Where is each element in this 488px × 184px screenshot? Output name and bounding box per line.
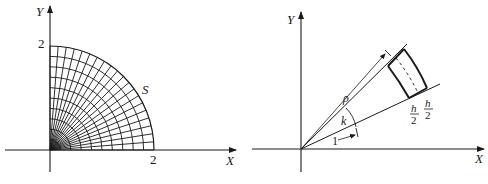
region-label-s: S bbox=[142, 82, 149, 97]
unit-label: 1 bbox=[332, 134, 338, 148]
sector-outer-arc bbox=[404, 49, 427, 88]
half-h-denominator-1: 2 bbox=[411, 114, 417, 126]
right-figure bbox=[252, 12, 484, 172]
left-figure: Y X 2 2 S bbox=[5, 4, 236, 172]
left-y-tick-2: 2 bbox=[38, 36, 45, 51]
sector-upper-edge bbox=[388, 49, 404, 66]
polar-grid bbox=[50, 46, 154, 150]
left-x-tick-2: 2 bbox=[150, 152, 157, 167]
sector-inner-arc bbox=[388, 66, 409, 98]
half-h-denominator-2: 2 bbox=[425, 109, 431, 121]
half-h-numerator-1: h bbox=[411, 102, 417, 114]
rho-label: ρ bbox=[342, 91, 349, 105]
right-x-axis-label: X bbox=[474, 151, 484, 166]
grid-ray bbox=[50, 61, 104, 150]
left-x-axis-label: X bbox=[225, 153, 235, 168]
lower-ray bbox=[301, 84, 440, 149]
diagram-canvas: Y X 2 2 S Y X ρ k 1 h 2 bbox=[0, 0, 488, 184]
angle-label-k: k bbox=[341, 114, 347, 128]
unit-end-tick bbox=[356, 128, 358, 137]
rho-end-tick bbox=[385, 50, 391, 56]
grid-ray bbox=[50, 96, 139, 150]
right-y-axis-label: Y bbox=[287, 12, 296, 27]
unit-arrow bbox=[338, 135, 355, 140]
upper-ray bbox=[301, 44, 407, 149]
half-h-numerator-2: h bbox=[425, 97, 431, 109]
right-labels: Y X ρ k 1 h 2 h 2 bbox=[287, 12, 484, 166]
left-y-axis-label: Y bbox=[36, 4, 45, 19]
